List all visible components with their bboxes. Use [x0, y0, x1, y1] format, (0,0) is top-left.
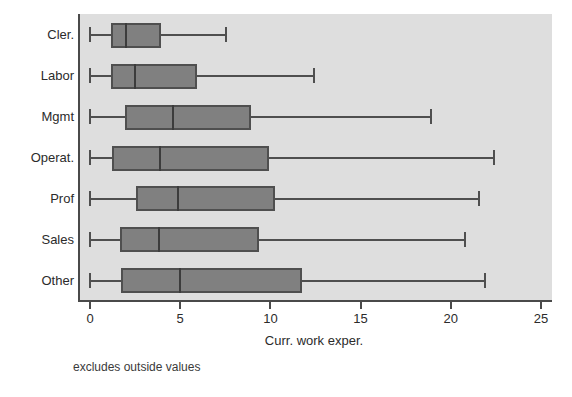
x-tick-label-10: 10 — [263, 311, 277, 326]
x-tick-25 — [540, 302, 542, 309]
x-tick-label-20: 20 — [444, 311, 458, 326]
category-label-cler: Cler. — [4, 28, 74, 42]
x-tick-label-5: 5 — [177, 311, 184, 326]
plot-panel — [78, 14, 552, 300]
category-label-other: Other — [4, 274, 74, 288]
x-tick-label-25: 25 — [534, 311, 548, 326]
x-axis-line — [78, 300, 552, 302]
x-tick-20 — [450, 302, 452, 309]
lower-whisker-line — [89, 280, 121, 282]
x-tick-5 — [179, 302, 181, 309]
x-tick-label-15: 15 — [353, 311, 367, 326]
chart-footnote: excludes outside values — [73, 360, 200, 374]
upper-whisker-line — [302, 280, 486, 282]
boxplot-figure: Cler.LaborMgmtOperat.ProfSalesOther 0510… — [0, 0, 572, 397]
category-label-sales: Sales — [4, 233, 74, 247]
category-label-labor: Labor — [4, 69, 74, 83]
x-tick-label-0: 0 — [86, 311, 93, 326]
box-iqr — [121, 268, 301, 293]
box-plot-other — [78, 14, 552, 300]
category-label-operat: Operat. — [4, 151, 74, 165]
x-tick-10 — [269, 302, 271, 309]
median-line — [179, 268, 181, 293]
x-axis-title: Curr. work exper. — [0, 333, 572, 348]
lower-whisker-cap — [89, 273, 91, 288]
x-tick-0 — [89, 302, 91, 309]
category-label-prof: Prof — [4, 192, 74, 206]
category-label-mgmt: Mgmt — [4, 110, 74, 124]
x-tick-15 — [360, 302, 362, 309]
y-axis-line — [78, 14, 80, 300]
upper-whisker-cap — [484, 273, 486, 288]
